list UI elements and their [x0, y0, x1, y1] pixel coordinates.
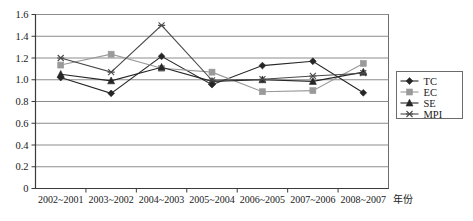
x-tick-label: 2004~2003 — [139, 194, 184, 205]
y-tick-label: 0.4 — [15, 140, 29, 151]
x-tick-label: 2003~2002 — [88, 194, 133, 205]
x-tick-label: 2005~2004 — [189, 194, 234, 205]
x-tick-label: 2007~2006 — [290, 194, 335, 205]
y-tick-label: 1.4 — [15, 31, 29, 42]
legend-label-ec: EC — [424, 87, 437, 98]
x-axis-ticks: 2002~20012003~20022004~20032005~20042006… — [38, 189, 386, 206]
x-axis-label: 年份 — [393, 193, 413, 205]
data-point-ec-0 — [58, 62, 64, 68]
x-tick-label: 2002~2001 — [38, 194, 83, 205]
line-chart: 00.20.40.60.81.01.21.41.62002~20012003~2… — [0, 0, 473, 221]
data-point-ec-4 — [259, 89, 265, 95]
legend-label-se: SE — [424, 98, 436, 109]
data-point-ec-5 — [310, 88, 316, 94]
data-point-ec-3 — [209, 69, 215, 75]
y-tick-label: 0.2 — [15, 161, 28, 172]
x-tick-label: 2006~2005 — [240, 194, 285, 205]
y-tick-label: 0 — [23, 183, 28, 194]
chart-figure: 00.20.40.60.81.01.21.41.62002~20012003~2… — [0, 0, 473, 221]
data-point-ec-6 — [360, 60, 366, 66]
y-tick-label: 1.0 — [15, 74, 28, 85]
x-tick-label: 2008~2007 — [341, 194, 386, 205]
legend: TCECSEMPI — [397, 72, 463, 120]
y-tick-label: 0.8 — [15, 96, 28, 107]
y-tick-label: 1.6 — [15, 9, 28, 20]
y-tick-label: 0.6 — [15, 118, 28, 129]
y-tick-label: 1.2 — [15, 53, 28, 64]
legend-marker-ec — [407, 89, 413, 95]
legend-label-tc: TC — [424, 76, 437, 87]
data-point-ec-1 — [108, 51, 114, 57]
y-axis-ticks: 00.20.40.60.81.01.21.41.6 — [15, 9, 35, 194]
legend-label-mpi: MPI — [424, 109, 443, 120]
